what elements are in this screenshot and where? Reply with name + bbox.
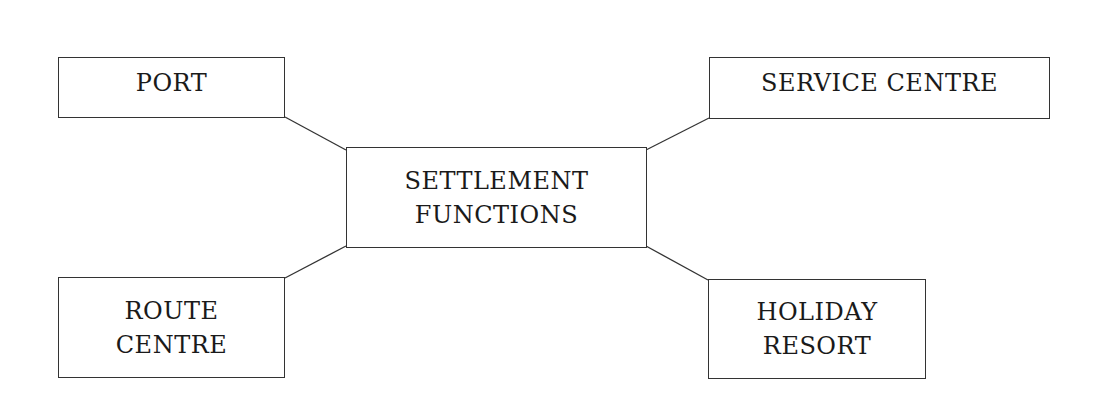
node-settlement-label-line2: FUNCTIONS bbox=[415, 198, 578, 232]
node-route-centre: ROUTE CENTRE bbox=[58, 277, 285, 378]
edge-service-to-center bbox=[646, 118, 709, 150]
node-route-label-line1: ROUTE bbox=[125, 294, 219, 328]
node-holiday-label-line2: RESORT bbox=[763, 329, 871, 363]
node-port: PORT bbox=[58, 57, 285, 118]
node-route-label-line2: CENTRE bbox=[116, 328, 227, 362]
edge-port-to-center bbox=[285, 117, 346, 150]
node-service-centre-label: SERVICE CENTRE bbox=[761, 66, 998, 100]
node-port-label: PORT bbox=[136, 66, 207, 100]
node-settlement-functions: SETTLEMENT FUNCTIONS bbox=[346, 147, 647, 248]
node-holiday-resort: HOLIDAY RESORT bbox=[708, 279, 926, 379]
edge-route-to-center bbox=[285, 246, 346, 278]
node-holiday-label-line1: HOLIDAY bbox=[757, 295, 878, 329]
node-settlement-label-line1: SETTLEMENT bbox=[405, 164, 589, 198]
node-service-centre: SERVICE CENTRE bbox=[709, 57, 1050, 119]
edge-holiday-to-center bbox=[646, 246, 708, 280]
